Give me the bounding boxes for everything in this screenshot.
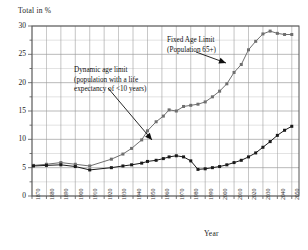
annotation-dynamic-line3: expectancy of <10 years) [74,85,147,95]
data-point-dynamic [196,168,199,171]
data-point-dynamic [247,155,250,158]
y-tick-label: 15 [10,106,26,115]
x-tick-label: 2030 [265,189,271,200]
data-point-dynamic [254,151,257,154]
y-tick-label: 20 [10,78,26,87]
x-tick-label: 2000 [222,189,228,200]
data-point-fixed [247,48,250,51]
x-tick-label: 1980 [193,189,199,200]
x-tick-label: 1890 [63,189,69,200]
data-point-dynamic [88,168,91,171]
data-point-fixed [240,63,243,66]
data-point-dynamic [189,159,192,162]
x-tick-label: 2010 [237,189,243,200]
data-point-dynamic [74,165,77,168]
data-point-dynamic [45,164,48,167]
data-point-fixed [155,120,158,123]
annotation-dynamic-line1: Dynamic age limit [74,66,147,76]
x-tick-label: 1880 [49,189,55,200]
data-point-fixed [121,153,124,156]
data-point-dynamic [240,159,243,162]
data-point-dynamic [140,162,143,165]
data-point-dynamic [233,161,236,164]
data-point-dynamic [261,146,264,149]
data-point-dynamic [110,166,113,169]
y-tick-label: 10 [10,134,26,143]
x-tick-label: 1900 [78,189,84,200]
data-point-dynamic [130,163,133,166]
data-point-dynamic [225,163,228,166]
x-tick-label: 2020 [251,189,257,200]
data-point-fixed [130,147,133,150]
data-point-fixed [254,40,257,43]
data-point-fixed [189,104,192,107]
data-point-dynamic [218,165,221,168]
data-point-fixed [196,103,199,106]
x-tick-label: 1970 [179,189,185,200]
data-point-fixed [290,33,293,36]
data-point-fixed [233,71,236,74]
annotation-dynamic-age-limit: Dynamic age limit (population with a lif… [74,66,147,95]
plot-area [0,0,308,250]
x-tick-label: 2050 [294,189,300,200]
x-tick-label: 2040 [280,189,286,200]
x-tick-label: 1940 [136,189,142,200]
data-point-dynamic [162,157,165,160]
x-tick-label: 1990 [208,189,214,200]
data-point-fixed [88,164,91,167]
x-tick-label: 1950 [150,189,156,200]
data-point-fixed [204,100,207,103]
data-point-dynamic [32,164,35,167]
y-tick-label: 5 [10,163,26,172]
data-point-dynamic [59,163,62,166]
data-point-fixed [283,33,286,36]
data-point-fixed [225,82,228,85]
chart-container: Total in % Year 051015202530 18701880189… [0,0,308,250]
data-point-fixed [269,30,272,33]
series-line-dynamic-age-limit [33,126,291,170]
data-point-dynamic [283,129,286,132]
data-point-fixed [140,138,143,141]
data-point-fixed [146,129,149,132]
y-tick-label: 0 [10,191,26,200]
data-point-fixed [175,110,178,113]
annotation-fixed-age-limit: Fixed Age Limit (Population 65+) [167,36,216,55]
x-tick-label: 1910 [92,189,98,200]
data-point-fixed [218,90,221,93]
data-point-fixed [110,158,113,161]
x-tick-label: 1930 [121,189,127,200]
data-point-dynamic [121,164,124,167]
annotation-fixed-line2: (Population 65+) [167,46,216,56]
data-point-fixed [182,105,185,108]
y-tick-label: 25 [10,49,26,58]
data-point-dynamic [155,159,158,162]
data-point-dynamic [146,160,149,163]
data-point-dynamic [290,125,293,128]
data-point-dynamic [269,140,272,143]
series-line-fixed-age-limit [33,31,291,166]
data-point-fixed [276,32,279,35]
annotation-arrow-dynamic-shaft [108,88,152,140]
data-point-dynamic [211,166,214,169]
x-tick-label: 1920 [107,189,113,200]
annotation-fixed-line1: Fixed Age Limit [167,36,216,46]
data-point-dynamic [168,155,171,158]
data-point-fixed [261,32,264,35]
data-point-fixed [168,108,171,111]
data-point-dynamic [175,154,178,157]
data-point-dynamic [204,167,207,170]
annotation-dynamic-line2: (population with a life [74,76,147,86]
x-tick-label: 1960 [164,189,170,200]
x-tick-label: 1870 [35,189,41,200]
y-tick-label: 30 [10,21,26,30]
data-point-dynamic [276,134,279,137]
data-point-dynamic [182,155,185,158]
data-point-fixed [162,115,165,118]
data-point-fixed [211,95,214,98]
